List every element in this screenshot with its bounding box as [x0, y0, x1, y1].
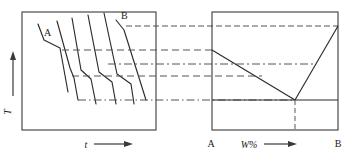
curve-label-a: A	[44, 27, 52, 38]
cooling-curve-a	[38, 24, 68, 92]
phase-diagram-lines	[212, 26, 338, 100]
composition-axis-arrow-icon	[288, 141, 297, 147]
time-axis-arrow-icon	[124, 141, 133, 147]
endpoint-label-a: A	[207, 138, 215, 149]
liquidus-b-line	[295, 26, 338, 100]
cooling-curve-group	[38, 13, 146, 104]
cooling-curves-frame	[22, 12, 156, 130]
figure-canvas: T t A B W% A B	[0, 0, 350, 160]
cooling-curve-3	[72, 18, 96, 104]
eutectic-construction-figure: T t A B W% A B	[0, 0, 350, 160]
cooling-curve-4	[88, 15, 116, 104]
composition-axis-label: W%	[241, 139, 258, 150]
endpoint-label-b: B	[335, 138, 342, 149]
temperature-axis: T	[2, 51, 16, 115]
composition-axis: W%	[241, 139, 297, 150]
cooling-curve-5	[104, 13, 134, 104]
tie-line-group	[62, 26, 338, 100]
cooling-curve-b	[116, 20, 146, 100]
temperature-axis-label: T	[2, 108, 13, 115]
time-axis: t	[85, 139, 133, 150]
temperature-axis-arrow-icon	[10, 51, 16, 60]
phase-diagram-frame	[212, 12, 338, 130]
time-axis-label: t	[85, 139, 88, 150]
liquidus-a-line	[212, 50, 295, 100]
curve-label-b: B	[121, 10, 128, 21]
